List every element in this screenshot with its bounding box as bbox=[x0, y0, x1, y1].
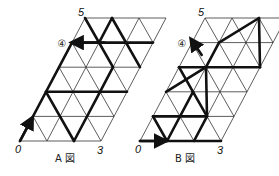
figure-caption: A 図 bbox=[55, 153, 75, 164]
path-segment bbox=[193, 92, 207, 117]
label-top: 5 bbox=[78, 6, 85, 18]
label-end-bottom: 3 bbox=[97, 144, 104, 156]
grid-lines bbox=[20, 18, 166, 141]
label-start: 0 bbox=[15, 143, 22, 155]
triangular-lattice-diagram: 035④A 図 035④B 図 bbox=[0, 0, 279, 176]
label-start: 0 bbox=[135, 143, 142, 155]
label-marker: ④ bbox=[58, 38, 67, 49]
figure-caption: B 図 bbox=[175, 153, 195, 164]
path-segment bbox=[100, 67, 113, 92]
path-segment bbox=[179, 67, 193, 92]
label-top: 5 bbox=[198, 6, 205, 18]
path-segment bbox=[206, 67, 207, 116]
label-end-bottom: 3 bbox=[217, 144, 224, 156]
figure-b: 035④B 図 bbox=[135, 6, 279, 164]
path-segment bbox=[153, 116, 167, 141]
start-arrow-icon bbox=[20, 121, 30, 141]
path-segment bbox=[194, 116, 207, 141]
path-segment bbox=[206, 43, 219, 68]
path-segment bbox=[259, 18, 260, 67]
bold-path bbox=[140, 18, 260, 141]
path-segment bbox=[99, 18, 112, 43]
path-segment bbox=[219, 18, 259, 43]
label-marker: ④ bbox=[178, 38, 187, 49]
